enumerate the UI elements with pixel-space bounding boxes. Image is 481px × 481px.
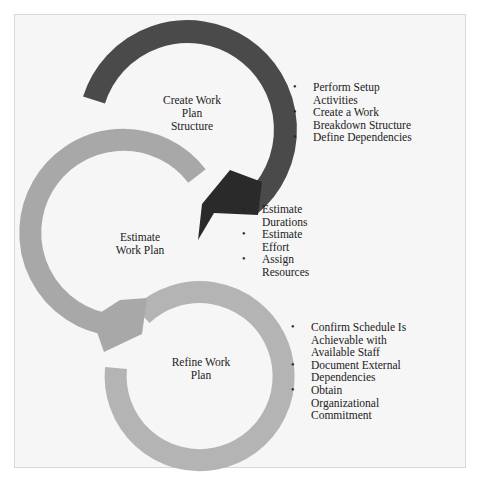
step-bullets-estimate: Estimate Durations Estimate Effort Assig… [240, 203, 330, 279]
step-bullets-create: Perform Setup Activities Create a Work B… [291, 81, 461, 144]
bullet-item: Create a Work Breakdown Structure [291, 106, 433, 131]
bullet-item: Define Dependencies [291, 131, 461, 144]
step-bullets-refine: Confirm Schedule Is Achievable with Avai… [289, 321, 439, 422]
bullet-item: Perform Setup Activities [291, 81, 413, 106]
bullet-item: Document External Dependencies [289, 359, 415, 384]
step-label-refine: Refine Work Plan [162, 356, 240, 382]
step-label-estimate: Estimate Work Plan [105, 231, 175, 257]
bullet-item: Estimate Durations [240, 203, 317, 228]
bullet-item: Obtain Organizational Commitment [289, 384, 401, 422]
bullet-item: Confirm Schedule Is Achievable with Avai… [289, 321, 415, 359]
estimate-arrowhead-icon [92, 298, 147, 352]
bullet-item: Assign Resources [240, 253, 317, 278]
bullet-item: Estimate Effort [240, 228, 317, 253]
step-label-create: Create Work Plan Structure [150, 94, 234, 133]
